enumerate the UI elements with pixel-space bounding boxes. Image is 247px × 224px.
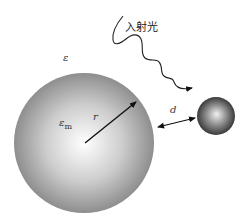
- diagram-canvas: 入射光 ε εm r d: [0, 0, 247, 224]
- medium-permittivity-label: ε: [63, 52, 68, 63]
- large-sphere: [14, 73, 154, 213]
- incident-light-label: 入射光: [125, 20, 158, 34]
- distance-label: d: [170, 104, 176, 115]
- small-sphere: [197, 97, 235, 135]
- sphere-permittivity-subscript: m: [64, 122, 72, 131]
- distance-arrow: [158, 118, 195, 127]
